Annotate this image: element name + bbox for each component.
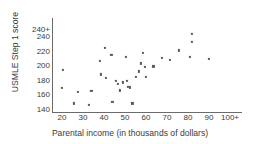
x-tick-label: 80 [184, 114, 193, 122]
data-point [145, 75, 147, 77]
data-point [104, 47, 106, 49]
data-point [119, 89, 121, 91]
data-point [191, 41, 193, 43]
y-tick-label: 160 [22, 91, 50, 99]
data-point [177, 49, 179, 51]
data-point [72, 102, 74, 104]
data-point [144, 66, 146, 68]
data-point [122, 81, 124, 83]
x-axis-title: Parental income (in thousands of dollars… [0, 128, 260, 138]
x-tick-label: 50 [121, 114, 130, 122]
x-tick-label: 30 [79, 114, 88, 122]
data-point [142, 51, 144, 53]
data-point [129, 86, 131, 88]
x-tick-label: 60 [142, 114, 151, 122]
data-point [88, 104, 90, 106]
y-tick-label: 220 [22, 48, 50, 56]
x-tick-label: 70 [163, 114, 172, 122]
data-point [138, 70, 140, 72]
data-point [114, 80, 116, 82]
y-axis-tick-labels: 140160180200220240240+ [16, 0, 50, 144]
y-tick-label: 200 [22, 62, 50, 70]
data-point [191, 33, 193, 35]
data-point [189, 56, 191, 58]
x-tick-label: 40 [100, 114, 109, 122]
x-tick-label: 90 [205, 114, 214, 122]
data-point [126, 80, 128, 82]
data-point [140, 62, 142, 64]
x-tick-label: 100+ [221, 114, 239, 122]
data-point [110, 54, 112, 56]
data-point [62, 69, 64, 71]
y-tick-label: 180 [22, 77, 50, 85]
data-point [152, 65, 154, 67]
data-point [90, 90, 92, 92]
data-point [111, 101, 113, 103]
data-point [131, 102, 133, 104]
data-point [77, 91, 79, 93]
y-tick-label: 240 [22, 33, 50, 41]
data-point [125, 56, 127, 58]
data-point [105, 77, 107, 79]
data-point [134, 75, 136, 77]
data-point [161, 57, 163, 59]
scatter-chart: USMLE Step 1 score 140160180200220240240… [0, 0, 260, 144]
data-point [169, 59, 171, 61]
data-point [99, 59, 101, 61]
data-point [61, 87, 63, 89]
data-point [208, 58, 210, 60]
y-tick-label: 240+ [22, 26, 50, 34]
plot-area [52, 18, 242, 113]
y-tick-label: 140 [22, 106, 50, 114]
data-point [117, 83, 119, 85]
x-tick-label: 20 [58, 114, 67, 122]
data-point [100, 73, 102, 75]
